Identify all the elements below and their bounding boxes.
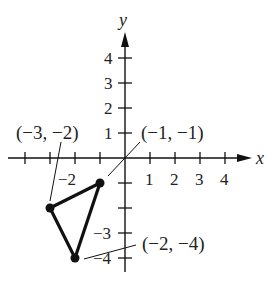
- leader-line: [108, 142, 140, 176]
- triangle-shape: [50, 183, 100, 258]
- y-tick-label: 4: [104, 49, 113, 68]
- x-tick-label: 2: [170, 170, 179, 189]
- y-tick-label: 1: [104, 124, 113, 143]
- x-tick-label: 4: [220, 170, 229, 189]
- x-axis-label: x: [255, 148, 264, 168]
- y-axis-label: y: [117, 10, 127, 30]
- y-axis: [118, 32, 132, 272]
- y-tick-label: 2: [104, 99, 113, 118]
- coordinate-plane: y x −2 1 2 3 4 4 3 2 1 −3 −4 (−3, −2) (−…: [0, 0, 280, 284]
- x-axis-arrow-icon: [237, 154, 252, 162]
- x-tick-label: −2: [58, 170, 76, 189]
- x-axis: [8, 152, 252, 164]
- y-axis-arrow-icon: [121, 32, 129, 47]
- point-marker: [46, 204, 55, 213]
- point-marker: [96, 179, 105, 188]
- point-annotation: (−2, −4): [142, 233, 205, 255]
- point-annotation: (−3, −2): [16, 122, 79, 144]
- x-tick-label: 1: [145, 170, 154, 189]
- x-tick-label: 3: [195, 170, 204, 189]
- point-marker: [71, 254, 80, 263]
- point-annotation: (−1, −1): [141, 122, 204, 144]
- y-tick-label: −3: [93, 224, 111, 243]
- y-tick-label: 3: [104, 74, 113, 93]
